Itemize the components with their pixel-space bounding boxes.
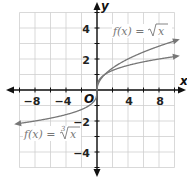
cbrt-equation-radicand: x bbox=[70, 128, 77, 141]
y-axis-label: y bbox=[101, 0, 110, 13]
x-axis-label: x bbox=[179, 74, 187, 88]
sqrt-equation-label: f(x) = x bbox=[112, 24, 172, 38]
cbrt-curve-left-arrow-icon bbox=[14, 120, 21, 126]
sqrt-equation-radicand: x bbox=[158, 25, 165, 38]
sqrt-curve bbox=[97, 40, 177, 90]
sqrt-equation-prefix: f(x) = bbox=[112, 25, 145, 38]
x-tick-label: 8 bbox=[156, 95, 164, 108]
y-axis-top-arrow-icon bbox=[94, 2, 101, 10]
origin-label: O bbox=[84, 92, 94, 106]
y-axis-bottom-arrow-icon bbox=[94, 169, 101, 177]
y-tick-label: −4 bbox=[73, 147, 90, 160]
y-tick-label: 2 bbox=[82, 54, 90, 67]
x-axis-left-arrow-icon bbox=[6, 87, 14, 94]
coordinate-plane: x y O −8 −4 4 8 4 2 −2 −4 f(x) = x f(x) … bbox=[0, 0, 187, 178]
x-tick-label: 4 bbox=[125, 95, 133, 108]
x-tick-label: −8 bbox=[24, 95, 41, 108]
x-tick-label: −4 bbox=[55, 95, 72, 108]
cbrt-equation-prefix: f(x) = bbox=[23, 128, 56, 141]
y-tick-label: 4 bbox=[82, 23, 90, 36]
cbrt-curve-right-arrow-icon bbox=[172, 54, 179, 60]
cbrt-equation-label: f(x) = 3 x bbox=[23, 125, 81, 141]
